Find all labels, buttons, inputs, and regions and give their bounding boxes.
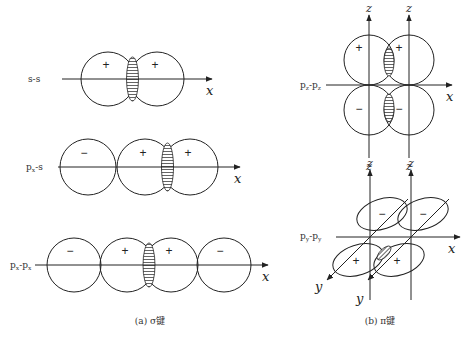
pi-bond-panel: zz+−zz+−xpz-pzzy−+zy−+xpy-py bbox=[300, 2, 460, 306]
minus-sign: − bbox=[66, 244, 73, 258]
py-py-overlap: zy−+zy−+xpy-py bbox=[300, 157, 460, 306]
pi-caption: (b) π键 bbox=[365, 315, 396, 326]
sigma-row-px-px: −++−xpx-px bbox=[10, 238, 270, 292]
minus-sign: − bbox=[419, 207, 426, 221]
overlap-region-upper bbox=[384, 48, 394, 76]
row-label: s-s bbox=[28, 74, 41, 84]
x-axis-label: x bbox=[446, 89, 454, 104]
z-axis-label: z bbox=[407, 157, 414, 170]
minus-sign: − bbox=[355, 102, 362, 116]
x-axis-label: x bbox=[448, 241, 456, 256]
minus-sign: − bbox=[216, 244, 223, 258]
row-label: px-px bbox=[10, 260, 32, 271]
plus-sign: + bbox=[393, 254, 400, 268]
plus-sign: + bbox=[139, 146, 146, 160]
overlap-region-lower bbox=[384, 94, 394, 122]
plus-sign: + bbox=[102, 58, 109, 72]
pz-pz-overlap: zz+−zz+−xpz-pz bbox=[300, 2, 454, 173]
sigma-caption: (a) σ键 bbox=[135, 315, 165, 326]
plus-sign: + bbox=[395, 41, 402, 55]
plus-sign: + bbox=[165, 244, 172, 258]
plus-sign: + bbox=[184, 146, 191, 160]
row-label: px-s bbox=[26, 162, 43, 173]
x-axis-label: x bbox=[262, 269, 270, 284]
minus-sign: − bbox=[80, 146, 87, 160]
sigma-row-px-s: −++xpx-s bbox=[26, 139, 242, 195]
plus-sign: + bbox=[151, 58, 158, 72]
x-axis-label: x bbox=[234, 171, 242, 186]
z-axis-label: z bbox=[366, 157, 373, 170]
y-axis-label: y bbox=[355, 291, 364, 306]
x-axis-label: x bbox=[206, 83, 214, 98]
z-axis-label: z bbox=[405, 2, 412, 15]
orbital-overlap-figure: ++xs-s−++xpx-s−++−xpx-px zz+−zz+−xpz-pzz… bbox=[0, 0, 470, 339]
z-axis-label: z bbox=[365, 2, 372, 15]
minus-sign: − bbox=[378, 207, 385, 221]
y-axis-label: y bbox=[314, 279, 323, 294]
plus-sign: + bbox=[355, 41, 362, 55]
sigma-bond-panel: ++xs-s−++xpx-s−++−xpx-px bbox=[10, 52, 270, 292]
plus-sign: + bbox=[121, 244, 128, 258]
bond-diagram: ++xs-s−++xpx-s−++−xpx-px zz+−zz+−xpz-pzz… bbox=[0, 0, 470, 339]
plus-sign: + bbox=[352, 254, 359, 268]
minus-sign: − bbox=[395, 102, 402, 116]
pz-pz-label: pz-pz bbox=[300, 80, 321, 91]
py-py-label: py-py bbox=[300, 231, 322, 243]
sigma-row-s-s: ++xs-s bbox=[28, 52, 214, 106]
